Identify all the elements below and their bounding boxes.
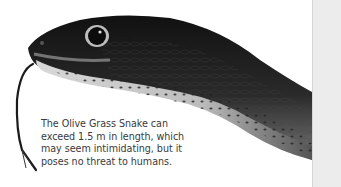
- caption-line: may seem intimidating, but it: [41, 143, 211, 156]
- caption-line: poses no threat to humans.: [41, 156, 211, 169]
- caption-line: exceed 1.5 m in length, which: [41, 131, 211, 144]
- photo-caption: The Olive Grass Snake can exceed 1.5 m i…: [41, 118, 211, 168]
- caption-line: The Olive Grass Snake can: [41, 118, 211, 131]
